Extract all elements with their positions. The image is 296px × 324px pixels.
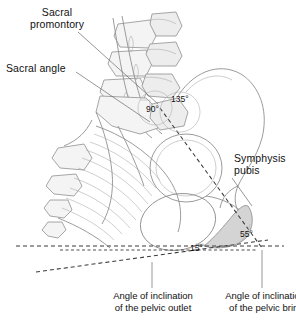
pelvic-brim-caption: Angle of inclination of the pelvic brim	[196, 290, 296, 313]
sacrum	[96, 96, 188, 224]
lumbar-vertebrae	[100, 12, 182, 104]
symphysis-pubis-shape	[204, 205, 252, 247]
outlet-angle-value: 15°	[190, 243, 203, 253]
sacral-angle-value: 135°	[171, 94, 189, 104]
symphysis-pubis-label: Symphysis pubis	[234, 152, 294, 176]
right-angle-value: 90°	[146, 104, 159, 114]
sacral-angle-label: Sacral angle	[6, 62, 110, 74]
brim-angle-value: 55°	[240, 229, 253, 239]
ilium	[178, 69, 264, 222]
coccyx	[42, 120, 92, 238]
sacral-promontory-label: Sacral promontory	[8, 6, 106, 30]
